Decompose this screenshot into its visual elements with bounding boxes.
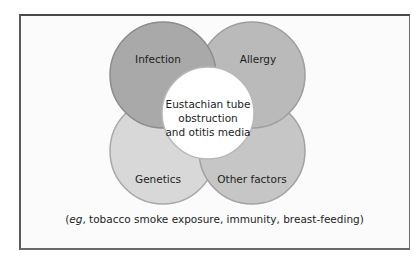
caption-italic: eg <box>69 213 82 225</box>
center-label-line-2: obstruction <box>178 112 238 124</box>
infection-label: Infection <box>135 53 181 65</box>
allergy-label: Allergy <box>240 53 277 65</box>
genetics-label: Genetics <box>135 173 181 185</box>
caption-rest: , tobacco smoke exposure, immunity, brea… <box>82 213 363 225</box>
other-factors-label: Other factors <box>217 173 286 185</box>
center-label-line-1: Eustachian tube <box>166 98 251 110</box>
center-label-line-3: and otitis media <box>165 126 250 138</box>
caption: (eg, tobacco smoke exposure, immunity, b… <box>19 213 410 225</box>
